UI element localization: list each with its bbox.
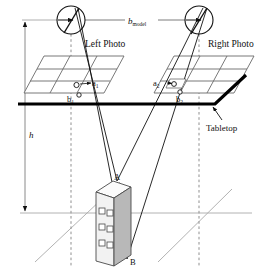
right-photo-label: Right Photo	[208, 39, 254, 49]
tabletop-label: Tabletop	[206, 123, 238, 133]
left-photo-outline	[24, 56, 124, 93]
tabletop-leader-line	[213, 107, 222, 120]
left-photo-label: Left Photo	[85, 39, 126, 49]
ground-plane-lines	[20, 182, 252, 262]
building-window	[99, 240, 105, 246]
ground-diagonal-right	[158, 189, 232, 262]
building-window	[99, 224, 105, 230]
height-label: h	[29, 130, 34, 140]
ray-right-to-pointB	[127, 8, 207, 259]
building-window	[107, 226, 113, 232]
diagram-canvas: bmodel h	[0, 0, 269, 270]
baseline-label: bmodel	[128, 16, 147, 27]
stereo-photogrammetry-diagram: bmodel h	[0, 0, 269, 270]
right-camera-lens	[185, 6, 213, 34]
height-dimension-arrow: h	[22, 20, 62, 211]
a2-leader-line	[167, 83, 172, 84]
building-window	[107, 210, 113, 216]
point-a2-label: a2	[153, 78, 160, 89]
building-window	[107, 242, 113, 248]
point-b1-marker	[77, 93, 81, 97]
building-model: A B	[96, 172, 136, 267]
left-photo-plane	[24, 56, 124, 93]
point-a1-marker	[74, 82, 79, 87]
point-b-label: B	[130, 257, 136, 267]
point-a-label: A	[114, 172, 121, 182]
point-a2-marker	[172, 82, 177, 87]
building-side-face	[114, 187, 131, 266]
building-window	[99, 208, 105, 214]
tabletop-callout: Tabletop	[206, 107, 238, 133]
baseline-dimension-arrow: bmodel	[77, 16, 193, 27]
